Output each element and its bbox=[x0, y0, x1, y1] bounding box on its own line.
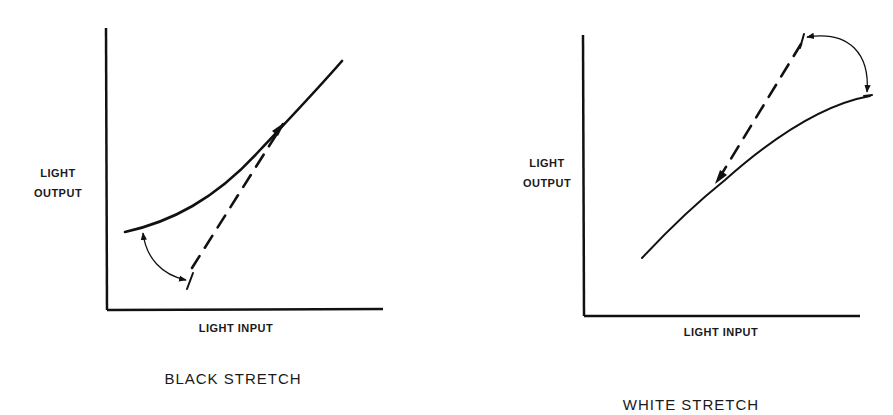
stretch-diagrams: LIGHT OUTPUT LIGHT INPUT BLACK STRETCH L… bbox=[0, 0, 893, 415]
y-axis bbox=[583, 35, 584, 316]
diagram-title: BLACK STRETCH bbox=[164, 370, 301, 387]
x-axis bbox=[107, 309, 383, 310]
x-axis-label: LIGHT INPUT bbox=[199, 322, 274, 334]
black-stretch-diagram: LIGHT OUTPUT LIGHT INPUT BLACK STRETCH bbox=[34, 28, 383, 387]
stretch-arrow-icon bbox=[143, 233, 186, 280]
end-tick bbox=[800, 34, 804, 48]
transfer-curve bbox=[642, 96, 870, 258]
y-axis bbox=[106, 28, 107, 310]
transfer-curve bbox=[125, 61, 342, 232]
stretch-arrow-icon bbox=[807, 36, 867, 92]
white-stretch-diagram: LIGHT OUTPUT LIGHT INPUT WHITE STRETCH bbox=[523, 34, 872, 413]
y-axis-label-line1: LIGHT bbox=[529, 157, 565, 169]
end-tick bbox=[187, 273, 193, 289]
y-axis-label-line2: OUTPUT bbox=[523, 177, 571, 189]
y-axis-label-line2: OUTPUT bbox=[34, 187, 82, 199]
reference-line-dashed bbox=[192, 124, 283, 268]
y-axis-label-line1: LIGHT bbox=[40, 167, 76, 179]
x-axis-label: LIGHT INPUT bbox=[684, 326, 759, 338]
dashed-arrowhead-icon bbox=[715, 170, 727, 184]
diagram-title: WHITE STRETCH bbox=[623, 396, 759, 413]
reference-line-dashed bbox=[718, 44, 801, 180]
curve-end-tick bbox=[864, 95, 872, 96]
